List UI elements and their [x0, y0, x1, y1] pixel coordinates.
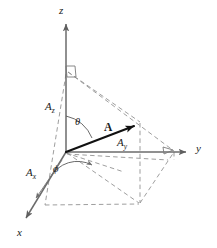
right-angle-z-axis-icon [66, 66, 76, 77]
dashed-azimuth-ray [66, 153, 124, 172]
right-angle-y-axis-icon [163, 147, 173, 154]
vector-A-label: A [104, 122, 112, 134]
dashed-origin-to-base [67, 153, 139, 203]
az-component-sub: z [52, 106, 55, 115]
ay-component-label: Ay [117, 137, 127, 151]
theta-angle-label: θ [75, 117, 80, 128]
ax-component-base: A [26, 166, 33, 178]
dashed-ztop-to-xproj [45, 74, 66, 205]
dashed-xproj-to-base [45, 204, 139, 205]
ay-component-sub: y [124, 142, 127, 151]
dashed-base-to-right [140, 152, 174, 203]
z-axis-label: z [59, 5, 63, 16]
x-axis-label: x [17, 227, 22, 238]
y-axis-label: y [196, 143, 201, 154]
ax-component-label: Ax [26, 167, 36, 181]
dashed-ztop-to-tip [68, 72, 140, 122]
dashed-origin-to-yvertex [67, 154, 168, 160]
az-component-label: Az [45, 101, 55, 115]
az-component-base: A [45, 100, 52, 112]
vector-diagram-figure: z y x Az Ay Ax A θ ϕ [0, 0, 217, 248]
ax-component-sub: x [33, 172, 36, 181]
phi-angle-label: ϕ [53, 164, 58, 175]
x-axis-line [26, 152, 66, 218]
construction-lines-dashed [45, 72, 174, 205]
ay-component-base: A [117, 136, 124, 148]
